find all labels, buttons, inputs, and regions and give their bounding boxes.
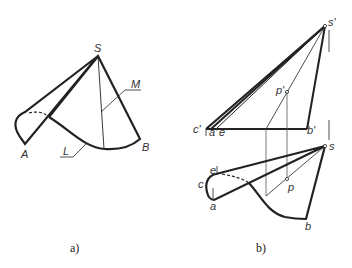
label-l: L [63, 145, 69, 157]
label-b-top: b [305, 220, 311, 232]
label-a: A [20, 148, 28, 160]
cone-projection-diagram: S A B L M a) c' a' e' b' p' s' e c a [0, 0, 352, 268]
label-s: S [94, 42, 102, 54]
figure-b-top [206, 144, 326, 219]
label-p-prime: p' [275, 84, 285, 96]
figure-b-front [206, 24, 329, 140]
label-c-prime: c' [193, 123, 202, 135]
point-s-prime [323, 24, 326, 27]
edge-a-s [211, 26, 325, 129]
label-e-prime: e' [219, 126, 228, 138]
generatrix-sm [98, 56, 104, 149]
label-c: c [198, 178, 204, 190]
top-hidden-edge [222, 174, 249, 183]
label-p: p [287, 181, 294, 193]
caption-b: b) [256, 241, 266, 255]
label-b: B [142, 141, 149, 153]
label-e: e [210, 164, 216, 176]
hidden-edge-a [29, 112, 49, 117]
leader-l [73, 144, 86, 157]
label-s-prime: s' [328, 16, 337, 28]
label-m: M [131, 78, 141, 90]
cone-base-curve-a [49, 56, 140, 149]
figure-a [15, 56, 141, 157]
label-s: s [329, 140, 335, 152]
point-s [323, 144, 326, 147]
label-a-top: a [210, 200, 216, 212]
label-b-prime: b' [307, 124, 316, 136]
edge-e-s [216, 26, 325, 129]
label-a-prime: a' [209, 126, 218, 138]
cone-outline-a [15, 56, 98, 144]
caption-a: a) [70, 241, 79, 255]
